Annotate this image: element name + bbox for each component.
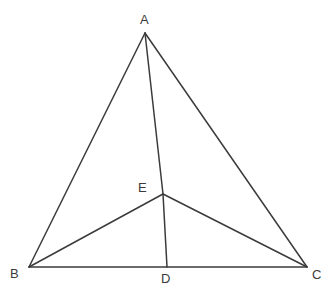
segments-group [29,33,307,267]
geometry-canvas [0,0,331,302]
vertex-label-c: C [312,268,321,281]
segment-ab [29,33,145,267]
vertex-label-d: D [161,272,170,285]
segment-be [29,194,163,267]
geometry-figure: A B C D E [0,0,331,302]
segment-ae [145,33,163,194]
vertex-label-a: A [140,13,149,26]
vertex-label-b: B [10,267,19,280]
vertex-label-e: E [138,181,147,194]
segment-ec [163,194,307,267]
segment-ac [145,33,307,267]
segment-ed [163,194,167,267]
